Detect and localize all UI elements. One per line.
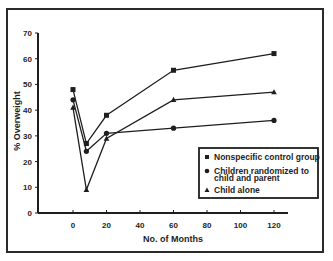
y-tick-label: 60	[23, 55, 32, 64]
x-tick-label: 60	[169, 221, 178, 230]
y-axis-title: % Overweight	[12, 91, 22, 151]
square-marker-icon	[272, 51, 277, 56]
circle-marker-icon	[84, 149, 89, 154]
legend-item-control: Nonspecific control group	[214, 152, 320, 162]
y-tick-label: 20	[23, 158, 32, 167]
x-tick-label: 20	[102, 221, 111, 230]
y-tick-label: 0	[28, 209, 33, 218]
square-marker-icon	[171, 68, 176, 73]
triangle-marker-icon	[84, 187, 90, 192]
legend-circle-marker-icon	[205, 169, 210, 174]
square-marker-icon	[71, 87, 76, 92]
y-tick-label: 10	[23, 183, 32, 192]
x-tick-label: 100	[234, 221, 248, 230]
y-tick-label: 50	[23, 80, 32, 89]
square-marker-icon	[104, 113, 109, 118]
legend: Nonspecific control group Children rando…	[199, 148, 320, 198]
y-axis-ticks: 010203040506070	[23, 29, 38, 218]
circle-marker-icon	[104, 131, 109, 136]
circle-marker-icon	[171, 126, 176, 131]
legend-item-child-alone: Child alone	[214, 185, 260, 195]
x-tick-label: 80	[203, 221, 212, 230]
x-tick-label: 40	[136, 221, 145, 230]
x-axis-title: No. of Months	[143, 234, 203, 244]
circle-marker-icon	[70, 97, 75, 102]
y-tick-label: 70	[23, 29, 32, 38]
legend-square-marker-icon	[205, 155, 209, 159]
legend-item-child-parent-line2: child and parent	[214, 173, 280, 183]
chart: 010203040506070 020406080100120 No. of M…	[0, 0, 333, 261]
circle-marker-icon	[271, 118, 276, 123]
y-tick-label: 30	[23, 132, 32, 141]
y-tick-label: 40	[23, 106, 32, 115]
x-tick-label: 120	[267, 221, 281, 230]
x-tick-label: 0	[71, 221, 76, 230]
